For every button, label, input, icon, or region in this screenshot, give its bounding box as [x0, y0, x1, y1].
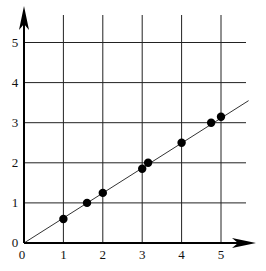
data-point: [207, 119, 215, 127]
grid: [24, 15, 246, 243]
y-tick-label: 3: [12, 115, 19, 130]
y-tick-label: 1: [12, 195, 19, 210]
y-tick-label: 0: [12, 235, 19, 250]
y-tick-label: 2: [12, 155, 19, 170]
data-point: [138, 165, 146, 173]
y-tick-label: 4: [12, 75, 19, 90]
data-point: [83, 199, 91, 207]
data-point: [99, 189, 107, 197]
x-tick-label: 3: [139, 247, 146, 262]
x-tick-label: 0: [19, 247, 26, 262]
x-tick-label: 4: [178, 247, 185, 262]
x-tick-label: 2: [100, 247, 107, 262]
scatter-chart: 012345012345: [0, 0, 266, 271]
y-tick-label: 5: [12, 35, 19, 50]
data-point: [144, 159, 152, 167]
data-point: [217, 112, 225, 120]
x-tick-label: 5: [218, 247, 225, 262]
x-tick-label: 1: [60, 247, 67, 262]
data-point: [177, 139, 185, 147]
data-point: [59, 215, 67, 223]
